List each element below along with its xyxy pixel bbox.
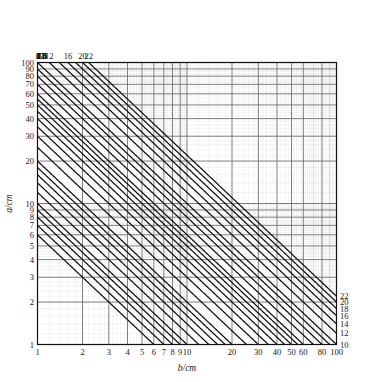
y-tick-label: 1 — [30, 340, 34, 350]
nomogram-chart: 1234567891020304050608010012345678910203… — [0, 0, 377, 382]
x-tick-label: 3 — [107, 347, 111, 357]
y-tick-label: 50 — [26, 100, 35, 110]
x-tick-label: 30 — [254, 347, 263, 357]
chart-canvas: 1234567891020304050608010012345678910203… — [0, 0, 377, 382]
y-tick-label: 5 — [30, 241, 34, 251]
y-tick-label: 30 — [26, 131, 35, 141]
right-curve-label-12: 12 — [340, 328, 349, 338]
x-tick-label: 50 — [287, 347, 296, 357]
x-tick-label: 20 — [228, 347, 237, 357]
x-tick-label: 7 — [162, 347, 166, 357]
top-curve-label-22: 22 — [84, 51, 93, 61]
x-tick-label: 8 — [170, 347, 174, 357]
x-tick-label: 5 — [140, 347, 144, 357]
x-tick-label: 60 — [299, 347, 308, 357]
right-curve-label-10: 10 — [340, 340, 349, 350]
y-tick-label: 40 — [26, 114, 35, 124]
y-tick-label: 3 — [30, 272, 34, 282]
x-tick-label: 9 — [178, 347, 182, 357]
y-tick-label: 2 — [30, 297, 34, 307]
y-tick-label: 100 — [21, 58, 34, 68]
y-tick-label: 10 — [26, 199, 35, 209]
y-axis-title: a/cm — [4, 194, 14, 213]
x-tick-label: 40 — [273, 347, 282, 357]
y-tick-label: 20 — [26, 156, 35, 166]
top-curve-label-9: 9 — [39, 51, 43, 61]
x-axis-title: b/cm — [178, 363, 197, 373]
y-tick-label: 60 — [26, 89, 35, 99]
x-tick-label: 10 — [183, 347, 192, 357]
y-tick-label: 4 — [30, 255, 35, 265]
top-curve-label-16: 16 — [64, 51, 73, 61]
x-tick-label: 2 — [80, 347, 84, 357]
x-tick-label: 4 — [125, 347, 130, 357]
x-tick-label: 6 — [152, 347, 156, 357]
x-tick-label: 80 — [318, 347, 327, 357]
top-curve-label-12: 12 — [45, 51, 54, 61]
y-tick-label: 6 — [30, 230, 34, 240]
x-tick-label: 1 — [35, 347, 39, 357]
